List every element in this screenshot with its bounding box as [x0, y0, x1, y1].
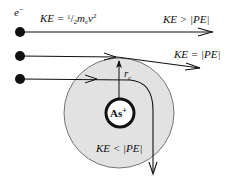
electron-capture-diagram: e− KE = 1/2mev2 KE > |PE| KE = |PE| KE <… — [0, 0, 235, 183]
label-critical: KE = |PE| — [173, 48, 220, 60]
kinetic-energy-formula: KE = 1/2mev2 — [39, 12, 97, 26]
electron-label: e− — [14, 5, 24, 18]
label-captured: KE < |PE| — [95, 142, 142, 154]
label-escape: KE > |PE| — [162, 13, 209, 25]
